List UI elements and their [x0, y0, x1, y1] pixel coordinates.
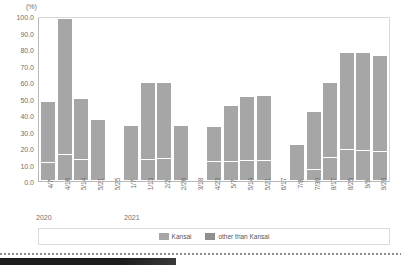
bar-segment-kansai: [340, 149, 354, 180]
bar-slot[interactable]: [239, 19, 256, 180]
stacked-bar[interactable]: [356, 53, 370, 180]
y-axis-tick-labels: 0.010.020.030.040.050.060.070.080.090.01…: [0, 0, 36, 228]
bar-slot[interactable]: [106, 19, 123, 180]
bar-segment-other-than-kansai: [340, 53, 354, 150]
bar-segment-other-than-kansai: [41, 102, 55, 162]
x-axis-tick-label: 6/17: [280, 178, 287, 191]
bar-slot[interactable]: [289, 19, 306, 180]
x-axis-tick-label: 5/25: [114, 178, 121, 191]
x-axis-tick-label: 7/8: [297, 179, 304, 188]
x-axis-tick: 1/7: [122, 184, 139, 214]
bar-segment-other-than-kansai: [307, 112, 321, 168]
bar-slot[interactable]: [40, 19, 57, 180]
x-axis-tick: 4/16: [56, 184, 73, 214]
stacked-bar[interactable]: [340, 53, 354, 180]
stacked-bar[interactable]: [74, 99, 88, 180]
stacked-bar[interactable]: [174, 126, 188, 180]
x-axis-tick-label: 5/7: [230, 179, 237, 188]
stacked-bar[interactable]: [141, 83, 155, 180]
bar-slot[interactable]: [322, 19, 339, 180]
bar-slot[interactable]: [272, 19, 289, 180]
stacked-bar[interactable]: [240, 97, 254, 180]
stacked-bar[interactable]: [124, 126, 138, 180]
stacked-bar[interactable]: [58, 19, 72, 180]
x-axis-tick: 5/21: [256, 184, 273, 214]
bar-segment-kansai: [58, 154, 72, 180]
x-axis-tick: 5/14: [239, 184, 256, 214]
x-axis-tick: 5/25: [106, 184, 123, 214]
bar-slot[interactable]: [305, 19, 322, 180]
stacked-bar[interactable]: [207, 127, 221, 180]
x-axis-tick-label: 5/21: [97, 178, 104, 191]
x-axis-tick: 7/8: [289, 184, 306, 214]
bar-slot[interactable]: [123, 19, 140, 180]
bar-segment-other-than-kansai: [224, 106, 238, 161]
y-axis-tick-label: 20.0: [0, 146, 34, 153]
x-axis-tick-label: 1/13: [147, 178, 154, 191]
bar-segment-other-than-kansai: [240, 97, 254, 160]
bar-slot[interactable]: [73, 19, 90, 180]
legend-label-other-than-kansai: other than Kansai: [218, 233, 269, 240]
x-axis-tick: 7/30: [306, 184, 323, 214]
x-axis-tick-labels: 4/74/165/145/215/251/71/132/22/263/184/2…: [39, 184, 389, 214]
x-axis-tick-label: 8/17: [330, 178, 337, 191]
bar-segment-other-than-kansai: [157, 83, 171, 159]
stacked-bar[interactable]: [307, 112, 321, 180]
y-axis-tick-label: 100.0: [0, 14, 34, 21]
x-axis-tick: 5/7: [222, 184, 239, 214]
y-axis-tick-label: 80.0: [0, 47, 34, 54]
plot-area: [38, 17, 390, 182]
y-axis-tick-label: 90.0: [0, 30, 34, 37]
stacked-bar[interactable]: [224, 106, 238, 180]
x-axis-tick: 8/17: [322, 184, 339, 214]
stacked-bar[interactable]: [91, 120, 105, 180]
bar-slot[interactable]: [156, 19, 173, 180]
bar-slot[interactable]: [189, 19, 206, 180]
bar-slot[interactable]: [372, 19, 389, 180]
x-axis-tick-label: 5/21: [264, 178, 271, 191]
bar-slot[interactable]: [355, 19, 372, 180]
x-axis-tick-label: 2/26: [180, 178, 187, 191]
chart-legend: Kansai other than Kansai: [38, 228, 390, 245]
x-axis-tick-label: 4/7: [47, 179, 54, 188]
x-axis-tick-label: 5/14: [80, 178, 87, 191]
stacked-bar[interactable]: [290, 145, 304, 180]
bar-slot[interactable]: [338, 19, 355, 180]
bar-slot[interactable]: [90, 19, 107, 180]
stacked-bar[interactable]: [41, 102, 55, 180]
bar-segment-other-than-kansai: [141, 83, 155, 159]
stacked-bar[interactable]: [157, 83, 171, 180]
bar-slot[interactable]: [206, 19, 223, 180]
x-axis-tick: 5/14: [72, 184, 89, 214]
bar-segment-other-than-kansai: [356, 53, 370, 150]
bar-slot[interactable]: [173, 19, 190, 180]
bar-segment-other-than-kansai: [174, 126, 188, 180]
x-axis-tick-label: 4/23: [214, 178, 221, 191]
x-axis-tick-label: 9/28: [380, 178, 387, 191]
y-axis-tick-label: 60.0: [0, 80, 34, 87]
bar-slot[interactable]: [57, 19, 74, 180]
y-axis-tick-label: 30.0: [0, 129, 34, 136]
bar-segment-kansai: [224, 161, 238, 180]
bar-slot[interactable]: [139, 19, 156, 180]
x-axis-tick: 9/9: [356, 184, 373, 214]
x-axis-tick: 3/18: [189, 184, 206, 214]
bar-segment-other-than-kansai: [91, 120, 105, 180]
stacked-bar[interactable]: [257, 96, 271, 180]
y-axis-tick-label: 50.0: [0, 96, 34, 103]
stacked-bar[interactable]: [373, 56, 387, 180]
x-axis-tick-label: 3/18: [197, 178, 204, 191]
bar-segment-other-than-kansai: [124, 126, 138, 180]
x-axis-tick-label: 9/9: [364, 179, 371, 188]
x-axis-tick: 1/13: [139, 184, 156, 214]
bars-container: [40, 19, 388, 180]
dotted-separator: [0, 253, 401, 255]
bar-slot[interactable]: [222, 19, 239, 180]
y-axis-tick-label: 10.0: [0, 162, 34, 169]
x-axis-tick: 2/26: [172, 184, 189, 214]
bar-slot[interactable]: [256, 19, 273, 180]
x-axis-tick-label: 5/14: [247, 178, 254, 191]
bar-segment-other-than-kansai: [207, 127, 221, 161]
x-axis-tick: 8/25: [339, 184, 356, 214]
stacked-bar[interactable]: [323, 83, 337, 180]
